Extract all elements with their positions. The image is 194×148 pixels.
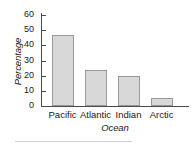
x-tick-label: Arctic xyxy=(150,109,174,120)
x-tick-label: Indian xyxy=(116,109,142,120)
bar xyxy=(52,35,74,106)
y-tick-label: 0 xyxy=(29,100,34,110)
y-tick-label: 50 xyxy=(24,24,34,34)
bar xyxy=(85,70,107,106)
y-tick-label: 30 xyxy=(24,55,34,65)
y-tick-label: 40 xyxy=(24,39,34,49)
bars-layer xyxy=(41,0,189,107)
bar xyxy=(151,98,173,106)
x-axis-title: Ocean xyxy=(41,122,189,133)
y-tick-label: 20 xyxy=(24,70,34,80)
bar xyxy=(118,76,140,106)
y-tick-label: 60 xyxy=(24,9,34,19)
bar-chart: Percentage 0102030405060 PacificAtlantic… xyxy=(0,0,194,148)
x-tick-label: Pacific xyxy=(49,109,77,120)
y-tick-label: 10 xyxy=(24,85,34,95)
footer-rule xyxy=(15,141,132,142)
y-axis-title: Percentage xyxy=(12,24,23,100)
x-tick-label: Atlantic xyxy=(80,109,111,120)
